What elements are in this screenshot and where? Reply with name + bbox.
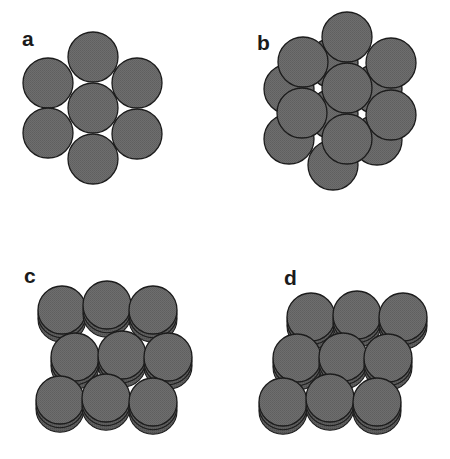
circle — [322, 12, 372, 62]
circle — [68, 134, 118, 184]
circle — [366, 90, 416, 140]
panel-d — [259, 291, 427, 434]
panel-b — [264, 12, 416, 190]
disc-stack — [82, 374, 130, 430]
circle — [68, 32, 118, 82]
circle — [112, 109, 162, 159]
disc-stack — [36, 376, 84, 432]
disc-stack — [353, 378, 401, 434]
circle — [23, 108, 73, 158]
disc-stack — [306, 374, 354, 430]
circle — [366, 38, 416, 88]
circle — [278, 37, 328, 87]
panel-b-label: b — [257, 31, 270, 54]
disc-stack — [129, 378, 177, 434]
circle — [68, 83, 118, 133]
circle — [322, 63, 372, 113]
circle — [23, 58, 73, 108]
circle — [277, 88, 327, 138]
panel-a-label: a — [22, 27, 34, 50]
panel-c-label: c — [24, 264, 36, 287]
disc-stack — [259, 378, 307, 434]
panel-d-label: d — [284, 266, 297, 289]
panel-c — [36, 281, 192, 434]
panel-a — [23, 32, 162, 184]
packing-figure: a b c d — [0, 0, 450, 459]
disc-stack — [83, 281, 131, 337]
circle — [322, 114, 372, 164]
circle — [112, 58, 162, 108]
